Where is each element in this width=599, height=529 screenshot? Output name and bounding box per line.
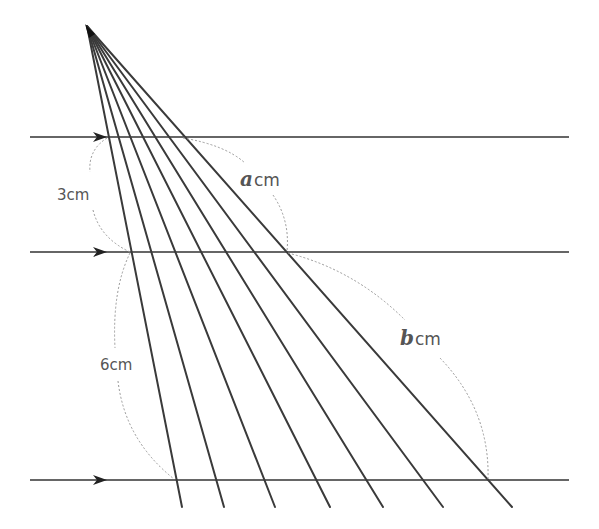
ray-4	[87, 26, 330, 507]
label-3cm: 3cm	[57, 186, 89, 204]
arc-b-upper	[288, 253, 405, 320]
arc-a-lower	[273, 195, 287, 251]
ray-2	[87, 26, 224, 507]
parallel-lines-diagram: 3cm 6cm acm bcm	[0, 0, 599, 529]
ray-6	[87, 26, 443, 507]
arc-a-upper	[183, 138, 245, 163]
arc-b-lower	[440, 358, 488, 479]
ray-7	[87, 26, 512, 507]
arc-6cm-upper	[115, 253, 130, 348]
label-b-cm: bcm	[400, 326, 441, 350]
arc-6cm-lower	[118, 381, 174, 479]
rays	[87, 26, 512, 507]
parallel-lines	[30, 137, 569, 480]
ray-1	[87, 26, 182, 507]
label-6cm: 6cm	[100, 356, 132, 374]
arc-3cm-upper	[90, 138, 107, 172]
ray-5	[87, 26, 383, 507]
label-a-cm: acm	[240, 167, 280, 191]
ray-3	[87, 26, 275, 507]
